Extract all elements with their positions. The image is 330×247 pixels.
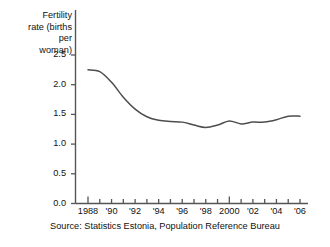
y-tick-label: 0.5 — [44, 168, 66, 178]
y-tick-label: 2.5 — [44, 49, 66, 59]
chart-figure: Fertility rate (births per woman) 0.00.5… — [0, 0, 330, 247]
x-tick-label: '06 — [280, 206, 320, 216]
y-tick-label: 0.0 — [44, 198, 66, 208]
y-tick-label: 2.0 — [44, 79, 66, 89]
x-axis-ticks — [88, 197, 300, 204]
axis-lines — [76, 10, 309, 204]
data-series-line — [88, 70, 300, 128]
source-caption: Source: Statistics Estonia, Population R… — [0, 221, 330, 231]
y-tick-label: 1.5 — [44, 108, 66, 118]
y-tick-label: 1.0 — [44, 138, 66, 148]
